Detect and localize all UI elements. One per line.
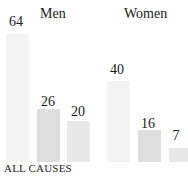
value-label-men-2: 26 <box>36 94 60 110</box>
value-label-men-3: 20 <box>66 104 90 120</box>
bar-men-2 <box>37 109 60 162</box>
chart-caption: ALL CAUSES <box>4 162 72 174</box>
group-title-men: Men <box>40 6 66 22</box>
bar-men-1 <box>6 34 29 162</box>
bar-women-1 <box>107 81 130 162</box>
bar-women-3 <box>169 148 188 162</box>
value-label-men-1: 64 <box>4 14 28 30</box>
bar-women-2 <box>138 130 161 162</box>
value-label-women-3: 7 <box>164 128 188 144</box>
group-title-women: Women <box>124 6 167 22</box>
bar-men-3 <box>67 121 90 162</box>
value-label-women-1: 40 <box>105 62 129 78</box>
